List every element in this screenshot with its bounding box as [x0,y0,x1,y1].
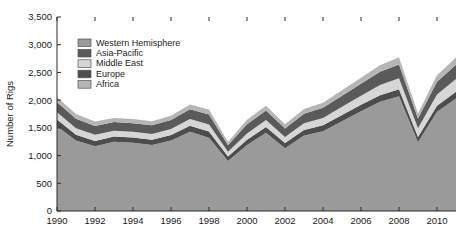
y-tick-label: 2,500 [28,67,52,78]
legend-label-western-hemisphere: Western Hemisphere [96,38,180,48]
legend-swatch-europe [78,70,91,78]
x-tick-label: 1998 [198,215,219,226]
y-tick-label: 500 [36,178,52,189]
y-tick-label: 1,000 [28,150,52,161]
x-tick-label: 2002 [274,215,295,226]
y-axis-title: Number of Rigs [4,81,15,147]
legend-label-middle-east: Middle East [96,58,144,68]
legend-label-africa: Africa [96,79,119,89]
x-tick-label: 2004 [312,215,333,226]
x-tick-label: 1990 [46,215,67,226]
x-tick-label: 1994 [122,215,143,226]
y-tick-label: 3,500 [28,11,52,22]
x-tick-label: 2000 [236,215,257,226]
x-tick-label: 1996 [160,215,181,226]
x-tick-label: 2008 [388,215,409,226]
legend-label-asia-pacific: Asia-Pacific [96,48,144,58]
x-tick-label: 2006 [350,215,371,226]
legend-swatch-asia-pacific [78,49,91,57]
y-tick-label: 3,000 [28,39,52,50]
legend-swatch-middle-east [78,60,91,68]
x-tick-label: 2010 [426,215,447,226]
legend-label-europe: Europe [96,69,125,79]
legend-swatch-africa [78,81,91,89]
stacked-area-chart: 1990199219941996199820002002200420062008… [0,0,467,250]
x-tick-label: 1992 [84,215,105,226]
y-tick-label: 1,500 [28,122,52,133]
y-tick-label: 2,000 [28,95,52,106]
legend-swatch-western-hemisphere [78,39,91,47]
chart-canvas: 1990199219941996199820002002200420062008… [0,0,467,250]
y-tick-label: 0 [47,205,52,216]
